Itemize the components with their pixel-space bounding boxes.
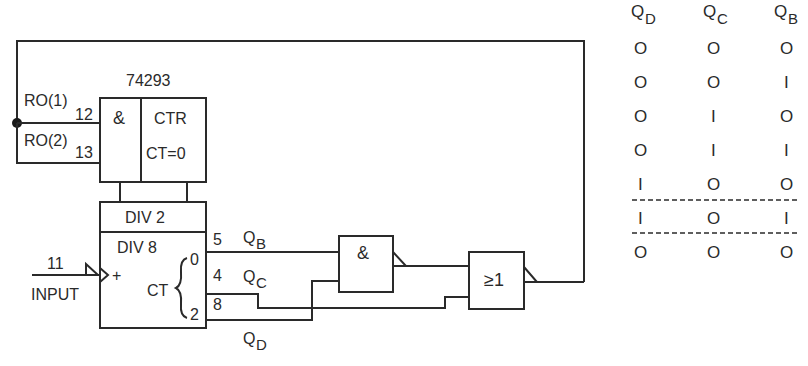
input-plus: + (112, 267, 121, 284)
reset-and-symbol: & (113, 108, 125, 128)
cell-qd: O (634, 73, 647, 92)
cell-qb: O (780, 39, 793, 58)
cell-qc: O (707, 73, 720, 92)
or-gate-symbol: ≥1 (484, 270, 504, 290)
header-qd-sub: D (645, 10, 656, 27)
input-pin: 11 (47, 255, 64, 272)
cell-qc: O (707, 209, 720, 228)
table-row: I O O (638, 175, 793, 194)
header-qb-name: Q (774, 2, 787, 21)
and-gate-symbol: & (357, 243, 369, 263)
table-row: O O O (634, 243, 793, 262)
ro2-pin: 13 (75, 144, 93, 161)
feedback-wire (17, 41, 584, 282)
qc-sub: C (256, 274, 267, 291)
input-label: INPUT (31, 286, 79, 303)
cell-qb: I (784, 141, 789, 160)
chip-label: 74293 (126, 72, 171, 89)
cell-qd: O (634, 39, 647, 58)
header-qc-sub: C (717, 10, 728, 27)
table-row: I O I (638, 209, 789, 228)
qd-wire (206, 281, 339, 320)
qc-wire (206, 294, 469, 308)
input-polarity-triangle (86, 264, 98, 275)
cell-qb: O (780, 175, 793, 194)
cell-qc: O (707, 243, 720, 262)
qd-sub: D (256, 336, 267, 353)
ct-label: CT (147, 282, 169, 299)
div8-label: DIV 8 (117, 239, 157, 256)
qd-pin: 8 (213, 296, 222, 313)
ro1-pin: 12 (75, 106, 93, 123)
cell-qd: O (634, 141, 647, 160)
table-row: O O O (634, 39, 793, 58)
clock-input-triangle (100, 268, 108, 282)
cell-qb: I (784, 209, 789, 228)
header-qd-name: Q (631, 2, 644, 21)
table-row: O I I (634, 141, 789, 160)
ro2-label: RO(2) (24, 132, 68, 149)
cell-qb: O (780, 107, 793, 126)
ct-bit-high: 2 (190, 306, 199, 323)
cell-qc: O (707, 39, 720, 58)
qb-name: Q (243, 229, 255, 246)
cell-qd: O (634, 243, 647, 262)
cell-qd: O (634, 107, 647, 126)
cell-qd: I (638, 209, 643, 228)
qc-name: Q (243, 268, 255, 285)
truth-table: Q D Q C Q B O O O O O I O I O O I I I O (631, 2, 798, 262)
ct-bit-low: 0 (190, 251, 199, 268)
cell-qd: I (638, 175, 643, 194)
ctr-title: CTR (154, 110, 187, 127)
qb-sub: B (256, 235, 266, 252)
qb-pin: 5 (213, 231, 222, 248)
ct-brace (176, 258, 187, 318)
table-row: O I O (634, 107, 793, 126)
cell-qc: I (711, 107, 716, 126)
header-qb-sub: B (788, 10, 798, 27)
table-row: O O I (634, 73, 789, 92)
counter-circuit-diagram: 74293 RO(1) 12 RO(2) 13 & CTR CT=0 DIV 2… (0, 0, 808, 366)
cell-qc: I (711, 141, 716, 160)
cell-qb: I (784, 73, 789, 92)
cell-qc: O (707, 175, 720, 194)
ro1-label: RO(1) (24, 92, 68, 109)
or-output-polarity-icon (524, 267, 537, 282)
qd-name: Q (243, 330, 255, 347)
header-qc-name: Q (703, 2, 716, 21)
truth-table-header: Q D Q C Q B (631, 2, 798, 27)
ctr-condition: CT=0 (146, 145, 186, 162)
div2-label: DIV 2 (125, 209, 165, 226)
cell-qb: O (780, 243, 793, 262)
qc-pin: 4 (213, 267, 222, 284)
and-output-polarity-icon (393, 252, 406, 266)
